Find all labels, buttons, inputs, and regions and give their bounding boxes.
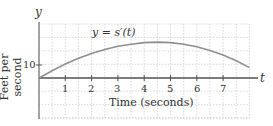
chart: y t y = s′(t) 10 Feet per second Time (s…	[0, 0, 273, 126]
curve-label: y = s′(t)	[92, 27, 136, 38]
x-tick-label: 7	[220, 84, 226, 94]
x-axis-label: Time (seconds)	[109, 97, 194, 108]
x-tick-label: 2	[88, 84, 94, 94]
y-axis-symbol: y	[35, 6, 42, 18]
y-tick-label-10: 10	[23, 60, 36, 70]
x-tick-label: 5	[167, 84, 173, 94]
x-tick-label: 4	[141, 84, 147, 94]
x-tick-label: 6	[194, 84, 200, 94]
x-tick-label: 3	[114, 84, 120, 94]
x-tick-label: 1	[62, 84, 68, 94]
x-axis-symbol: t	[260, 72, 265, 84]
y-axis-label: Feet per second	[0, 42, 24, 112]
